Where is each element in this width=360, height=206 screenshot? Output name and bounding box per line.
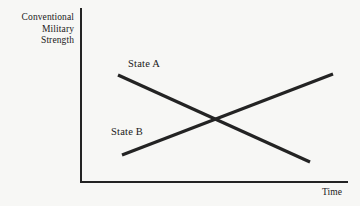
series-label-state-a: State A	[128, 58, 160, 70]
x-axis-title: Time	[322, 186, 342, 198]
series-label-state-b: State B	[111, 126, 143, 138]
plot-area	[0, 0, 360, 206]
series-line-state-b	[122, 74, 333, 155]
chart-figure: Conventional Military Strength State A S…	[0, 0, 360, 206]
